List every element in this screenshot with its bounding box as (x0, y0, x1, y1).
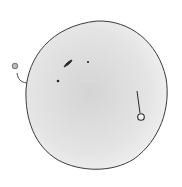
sphere (26, 21, 167, 169)
dot-mark (57, 80, 60, 83)
small-circle-icon (12, 63, 18, 69)
pin-head-icon (138, 114, 145, 121)
sketch-canvas (0, 0, 182, 187)
dot-mark (87, 61, 89, 63)
